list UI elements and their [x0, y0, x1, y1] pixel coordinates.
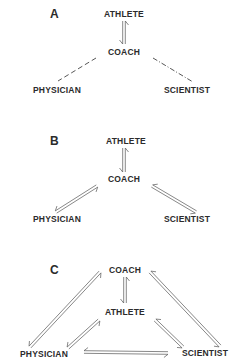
edge-coach-scientist: [151, 184, 196, 214]
node-coach: COACH: [109, 265, 141, 275]
node-scientist: SCIENTIST: [164, 85, 211, 95]
node-coach: COACH: [108, 174, 140, 184]
panel-label-c: C: [50, 263, 59, 277]
edge-coach-athlete: [121, 277, 130, 303]
node-physician: PHYSICIAN: [33, 214, 81, 224]
edge-coach-scientist: [149, 271, 221, 347]
edge-coach-physician: [29, 271, 101, 348]
node-scientist: SCIENTIST: [164, 214, 211, 224]
edge-athlete-scientist: [154, 319, 184, 348]
panel-c: C COACH ATHLETE PHYSICIAN SCIENTIST: [20, 263, 229, 359]
panel-a: A ATHLETE COACH PHYSICIAN SCIENTIST: [33, 7, 211, 95]
edge-coach-athlete: [120, 21, 129, 44]
edge-coach-scientist: [153, 58, 193, 82]
node-physician: PHYSICIAN: [33, 85, 81, 95]
node-coach: COACH: [108, 47, 140, 57]
team-relationship-diagram: A ATHLETE COACH PHYSICIAN SCIENTIST B AT…: [0, 0, 239, 362]
edge-athlete-physician: [67, 319, 100, 349]
panel-b: B ATHLETE COACH PHYSICIAN SCIENTIST: [33, 134, 211, 224]
node-physician: PHYSICIAN: [20, 349, 68, 359]
edge-coach-physician: [58, 58, 96, 81]
node-athlete: ATHLETE: [104, 9, 144, 19]
node-scientist: SCIENTIST: [182, 348, 229, 358]
edge-coach-athlete: [120, 148, 129, 172]
node-athlete: ATHLETE: [105, 307, 145, 317]
edge-physician-scientist: [84, 348, 168, 358]
edge-coach-physician: [55, 185, 97, 213]
panel-label-b: B: [50, 134, 59, 148]
panel-label-a: A: [50, 7, 59, 21]
node-athlete: ATHLETE: [106, 136, 146, 146]
